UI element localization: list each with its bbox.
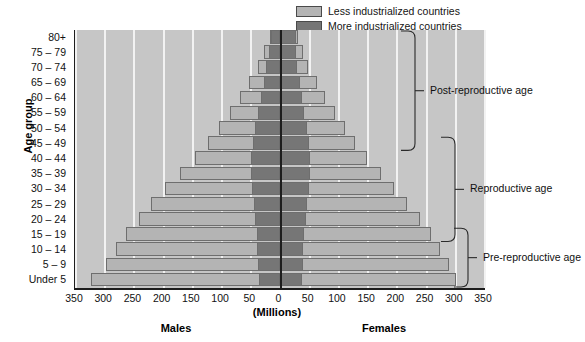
bar-segment-females-more-industrialized xyxy=(281,258,303,272)
y-axis-tick-label: 35 – 39 xyxy=(31,167,66,179)
y-axis-tick-label: 40 – 44 xyxy=(31,152,66,164)
y-axis-tick-label: 30 – 34 xyxy=(31,182,66,194)
bar-segment-females-more-industrialized xyxy=(281,167,310,181)
x-axis-tick-label: 200 xyxy=(153,292,171,304)
y-axis-tick-label: 20 – 24 xyxy=(31,213,66,225)
bar-segment-females-more-industrialized xyxy=(281,273,302,287)
x-axis-tick-label: 350 xyxy=(65,292,83,304)
x-axis-tick-label: 100 xyxy=(211,292,229,304)
bar-segment-females-more-industrialized xyxy=(281,106,305,120)
bar-segment-females-more-industrialized xyxy=(281,242,304,256)
x-axis-tick-label: 300 xyxy=(94,292,112,304)
bar-segment-females-more-industrialized xyxy=(281,76,300,90)
legend-swatch-less-industrialized xyxy=(296,6,322,17)
bar-segment-females-more-industrialized xyxy=(281,91,303,105)
bar-segment-males-more-industrialized xyxy=(251,151,280,165)
bar-segment-males-more-industrialized xyxy=(255,121,280,135)
bar-segment-females-less-industrialized xyxy=(281,258,449,272)
bar-segment-females-more-industrialized xyxy=(281,30,296,44)
males-side-label: Males xyxy=(161,322,192,334)
bar-segment-females-more-industrialized xyxy=(281,121,307,135)
bar-segment-females-less-industrialized xyxy=(281,242,441,256)
bar-segment-females-more-industrialized xyxy=(281,212,306,226)
x-axis-tick-label: 300 xyxy=(445,292,463,304)
x-axis-tick-label: 50 xyxy=(243,292,255,304)
bar-segment-females-more-industrialized xyxy=(281,182,309,196)
x-axis-tick-label: 350 xyxy=(474,292,492,304)
bar-segment-males-more-industrialized xyxy=(266,60,280,74)
bar-segment-males-more-industrialized xyxy=(253,136,280,150)
bar-segment-females-more-industrialized xyxy=(281,151,310,165)
bar-segment-males-more-industrialized xyxy=(259,273,281,287)
bar-segment-males-more-industrialized xyxy=(254,197,281,211)
bar-segment-females-more-industrialized xyxy=(281,197,308,211)
y-axis-tick-labels: 80+75 – 7970 – 7465 – 6960 – 6455 – 5950… xyxy=(0,30,70,288)
y-axis-tick-label: 10 – 14 xyxy=(31,243,66,255)
bar-segment-males-more-industrialized xyxy=(252,182,280,196)
annotation-label: Pre-reproductive age xyxy=(483,251,581,263)
annotation-label: Post-reproductive age xyxy=(430,84,533,96)
y-axis-tick-label: 5 – 9 xyxy=(43,258,66,270)
x-axis-tick-label: 0 xyxy=(276,292,282,304)
y-axis-tick-label: 50 – 54 xyxy=(31,122,66,134)
x-axis-tick-label: 50 xyxy=(302,292,314,304)
y-axis-tick-label: 45 – 49 xyxy=(31,137,66,149)
bar-segment-males-more-industrialized xyxy=(258,106,280,120)
bar-segment-males-more-industrialized xyxy=(257,242,280,256)
bar-segment-males-less-industrialized xyxy=(116,242,281,256)
x-axis-tick-label: 100 xyxy=(328,292,346,304)
bar-segment-males-more-industrialized xyxy=(255,212,280,226)
bar-segment-males-more-industrialized xyxy=(251,167,280,181)
y-axis-tick-label: 15 – 19 xyxy=(31,228,66,240)
bar-segment-males-less-industrialized xyxy=(106,258,280,272)
bar-segment-males-more-industrialized xyxy=(264,76,281,90)
bar-segment-males-more-industrialized xyxy=(257,227,281,241)
x-axis-tick-label: 250 xyxy=(416,292,434,304)
y-axis-tick-label: 55 – 59 xyxy=(31,106,66,118)
bar-segment-females-more-industrialized xyxy=(281,136,309,150)
legend-label-less-industrialized: Less industrialized countries xyxy=(328,6,460,17)
bar-segment-males-less-industrialized xyxy=(91,273,280,287)
bar-segment-females-more-industrialized xyxy=(281,227,305,241)
zero-axis-line xyxy=(280,30,282,288)
x-axis-tick-label: 150 xyxy=(182,292,200,304)
bar-segment-males-more-industrialized xyxy=(258,258,281,272)
y-axis-tick-label: Under 5 xyxy=(29,273,66,285)
y-axis-tick-label: 60 – 64 xyxy=(31,91,66,103)
plot-area xyxy=(74,30,485,290)
x-axis-tick-label: 150 xyxy=(357,292,375,304)
y-axis-tick-label: 70 – 74 xyxy=(31,61,66,73)
x-axis-tick-label: 200 xyxy=(387,292,405,304)
bar-segment-females-more-industrialized xyxy=(281,60,298,74)
bar-segment-males-more-industrialized xyxy=(261,91,281,105)
legend-item-less-industrialized: Less industrialized countries xyxy=(296,4,526,18)
y-axis-tick-label: 65 – 69 xyxy=(31,76,66,88)
population-pyramid-figure: Less industrialized countries More indus… xyxy=(0,0,585,342)
females-side-label: Females xyxy=(362,322,406,334)
x-axis-tick-label: 250 xyxy=(124,292,142,304)
y-axis-tick-label: 80+ xyxy=(48,31,66,43)
annotation-label: Reproductive age xyxy=(470,182,552,194)
y-axis-tick-label: 75 – 79 xyxy=(31,46,66,58)
y-axis-tick-label: 25 – 29 xyxy=(31,198,66,210)
x-axis-units-label: (Millions) xyxy=(253,306,301,318)
bar-segment-females-less-industrialized xyxy=(281,273,456,287)
bar-segment-females-more-industrialized xyxy=(281,45,296,59)
